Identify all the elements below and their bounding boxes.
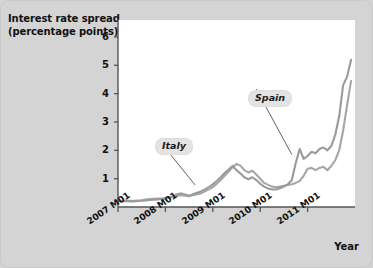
y-tick-label: 1	[95, 173, 109, 184]
y-tick-label: 4	[95, 88, 109, 99]
axis-group	[114, 20, 355, 212]
series-label-italy: Italy	[156, 139, 192, 154]
chart-canvas	[0, 0, 373, 268]
y-tick-label: 3	[95, 116, 109, 127]
x-axis-title: Year	[334, 241, 359, 252]
y-tick-label: 5	[95, 59, 109, 70]
y-tick-label: 2	[95, 144, 109, 155]
series-group	[118, 60, 351, 202]
series-line-italy	[118, 81, 351, 201]
y-tick-label: 6	[95, 31, 109, 42]
series-line-spain	[118, 60, 351, 202]
chart-figure: Interest rate spread (percentage points)…	[0, 0, 373, 268]
series-label-spain: Spain	[249, 91, 291, 106]
